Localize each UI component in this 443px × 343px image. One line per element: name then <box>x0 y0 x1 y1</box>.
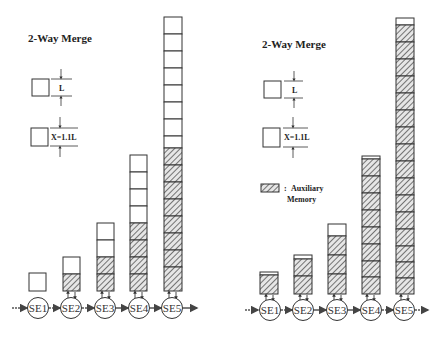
left-se4-column <box>130 155 147 291</box>
right-se3-label: SE3 <box>328 304 347 316</box>
left-panel: 2-Way Merge L X=1.1L <box>12 17 197 319</box>
right-legend-box-l: L <box>264 71 303 108</box>
right-se1-column <box>260 272 278 294</box>
aux-memory-label-2: Memory <box>287 195 316 204</box>
left-se2-label: SE2 <box>62 302 80 314</box>
left-se1-buffer <box>29 273 46 291</box>
right-se4-label: SE4 <box>362 304 381 316</box>
right-se2-column <box>294 255 312 294</box>
left-se3-column <box>97 223 114 291</box>
right-se2-label: SE2 <box>294 304 312 316</box>
right-se5-column <box>396 18 414 294</box>
left-se-chain: SE1 SE2 SE3 SE4 SE5 <box>12 298 197 319</box>
left-se3-label: SE3 <box>96 302 115 314</box>
legend-box-x: X=1.1L <box>31 117 78 157</box>
right-se5-label: SE5 <box>395 304 414 316</box>
left-se5-label: SE5 <box>163 302 182 314</box>
right-legend-box-x: X=1.1L <box>263 117 310 158</box>
left-se2-column <box>63 257 80 291</box>
right-se-chain: SE1 SE2 SE3 SE4 SE5 <box>245 300 428 321</box>
two-way-merge-diagram: 2-Way Merge L X=1.1L <box>0 0 443 343</box>
legend-l-label: L <box>59 84 64 93</box>
right-legend-l-label: L <box>292 86 297 95</box>
right-se4-column <box>362 156 380 294</box>
aux-memory-legend: : Auxiliary Memory <box>261 184 323 204</box>
right-title: 2-Way Merge <box>262 38 326 50</box>
left-se5-column <box>164 17 182 291</box>
right-panel: 2-Way Merge L X=1.1L : Auxiliary Memory <box>245 18 428 321</box>
right-se3-column <box>328 224 346 294</box>
aux-memory-label-1: Auxiliary <box>291 184 323 193</box>
right-legend-x-label: X=1.1L <box>284 133 310 142</box>
legend-box-l: L <box>32 69 72 106</box>
left-se1-label: SE1 <box>29 302 47 314</box>
svg-text::: : <box>284 184 287 193</box>
aux-memory-swatch <box>261 184 279 192</box>
left-se4-label: SE4 <box>130 302 149 314</box>
legend-x-label: X=1.1L <box>51 133 77 142</box>
right-se1-label: SE1 <box>261 304 279 316</box>
left-title: 2-Way Merge <box>28 32 92 44</box>
left-io-arrows <box>68 292 176 298</box>
